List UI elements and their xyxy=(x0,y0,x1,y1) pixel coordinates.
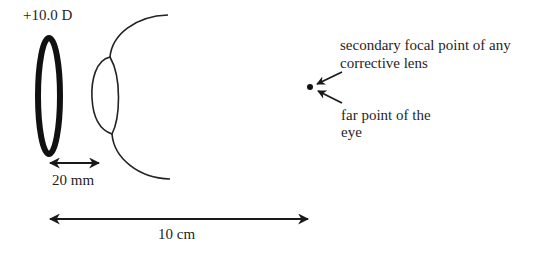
focal-point-pointer-arrow xyxy=(317,72,342,84)
eye-cornea-bottom-arc xyxy=(112,134,170,179)
total-distance-label: 10 cm xyxy=(158,226,195,243)
eye-lens-icon xyxy=(92,57,119,134)
far-point-label-line2: eye xyxy=(341,124,362,141)
far-point-label-line1: far point of the xyxy=(341,107,431,124)
far-point-dot xyxy=(307,84,313,90)
vertex-distance-label: 20 mm xyxy=(52,172,94,189)
corrective-lens-icon xyxy=(38,38,60,154)
focal-point-label-line2: corrective lens xyxy=(340,55,428,72)
lens-power-label: +10.0 D xyxy=(23,7,72,24)
far-point-pointer-arrow xyxy=(318,91,342,103)
focal-point-label-line1: secondary focal point of any xyxy=(340,37,511,54)
eye-cornea-top-arc xyxy=(110,15,168,57)
